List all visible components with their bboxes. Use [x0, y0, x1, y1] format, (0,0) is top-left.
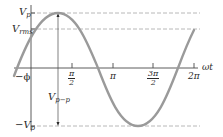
- vrms-label-sub: rms: [19, 28, 33, 36]
- pi-label-text: π: [110, 71, 116, 81]
- two-pi-label-text: 2π: [188, 71, 200, 81]
- x-axis-label: ωt: [202, 63, 213, 72]
- sine-curve: [14, 13, 194, 126]
- tick-label-three-pi-half: 3π 2: [147, 70, 159, 87]
- neg-vp-label-main: −V: [15, 119, 31, 130]
- phase-label-text: −ϕ: [15, 71, 30, 82]
- tick-label-two-pi: 2π: [188, 72, 200, 81]
- x-axis-label-text: ωt: [202, 62, 213, 72]
- tick-label-pi: π: [110, 72, 116, 81]
- vpp-label-sub: p−p: [55, 96, 70, 104]
- three-pi-half-denominator: 2: [151, 79, 156, 87]
- vp-label: Vp: [19, 7, 31, 19]
- sine-wave-diagram: Vp Vrms −Vp −ϕ Vp−p ωt π 2 π 3π 2 2π: [0, 0, 223, 137]
- vrms-label: Vrms: [12, 24, 33, 36]
- neg-vp-label: −Vp: [15, 120, 35, 132]
- diagram-canvas: [0, 0, 223, 137]
- vpp-arrow-down-head: [57, 122, 60, 126]
- neg-vp-label-sub: p: [31, 124, 35, 132]
- vp-label-sub: p: [26, 11, 30, 19]
- tick-label-pi-half: π 2: [68, 70, 75, 87]
- phase-label: −ϕ: [15, 72, 30, 82]
- vpp-label: Vp−p: [48, 92, 70, 104]
- pi-half-denominator: 2: [69, 79, 74, 87]
